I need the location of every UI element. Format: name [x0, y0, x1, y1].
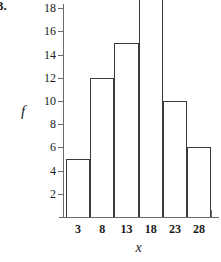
histogram-bar — [139, 0, 163, 217]
y-axis-line — [63, 4, 64, 218]
x-axis-tick-label: 13 — [114, 222, 140, 236]
y-axis-tick-label-wrap: 2 — [30, 188, 56, 200]
y-axis-tick-label-wrap: 16 — [30, 25, 56, 37]
y-axis-tick — [58, 31, 63, 32]
y-axis-tick-label: 8 — [34, 118, 56, 130]
y-axis-tick-label-wrap: 6 — [30, 141, 56, 153]
y-axis-tick-label-wrap: 8 — [30, 118, 56, 130]
histogram-bar — [90, 78, 114, 217]
y-axis-tick-label: 16 — [34, 25, 56, 37]
y-axis-tick — [58, 147, 63, 148]
x-axis-line — [59, 217, 219, 218]
y-axis-tick-label: 4 — [34, 165, 56, 177]
y-axis-tick-label: 6 — [34, 141, 56, 153]
y-axis-tick — [58, 194, 63, 195]
y-axis-tick-label-wrap: 10 — [30, 95, 56, 107]
x-axis-tick — [211, 210, 212, 217]
y-axis-tick-label: 14 — [34, 49, 56, 61]
y-axis-tick-label: 18 — [34, 2, 56, 14]
histogram-bar — [163, 101, 187, 217]
histogram-bar — [187, 147, 211, 217]
y-axis-title: f — [21, 103, 25, 120]
y-axis-tick — [58, 55, 63, 56]
y-axis-tick-label: 10 — [34, 95, 56, 107]
y-axis-tick-label: 2 — [34, 188, 56, 200]
y-axis-tick-label-wrap: 18 — [30, 2, 56, 14]
y-axis-tick — [58, 171, 63, 172]
histogram-bar — [66, 159, 90, 217]
y-axis-tick-label-wrap: 12 — [30, 72, 56, 84]
y-axis-tick-label: 12 — [34, 72, 56, 84]
y-axis-tick-label-wrap: 4 — [30, 165, 56, 177]
x-axis-tick-label: 3 — [65, 222, 91, 236]
y-axis-tick — [58, 78, 63, 79]
y-axis-tick — [58, 101, 63, 102]
y-axis-tick-label-wrap: 14 — [30, 49, 56, 61]
x-axis-tick-label: 28 — [186, 222, 212, 236]
y-axis-tick — [58, 124, 63, 125]
x-axis-tick-label: 23 — [162, 222, 188, 236]
x-axis-title: x — [0, 240, 221, 256]
plot-area: 2468101214161820 3813182328 f x — [0, 0, 221, 262]
x-axis-tick-label: 18 — [138, 222, 164, 236]
x-axis-tick-label: 8 — [89, 222, 115, 236]
y-axis-tick — [58, 8, 63, 9]
histogram-bar — [114, 43, 138, 217]
histogram-figure: 3. 2468101214161820 3813182328 f x — [0, 0, 221, 262]
